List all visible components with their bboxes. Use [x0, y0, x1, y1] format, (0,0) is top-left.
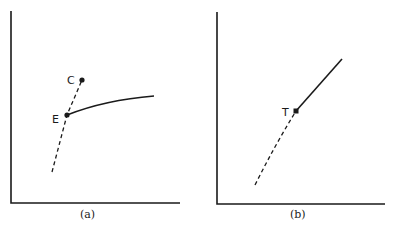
- panel-a-axes: [11, 11, 180, 203]
- panel-a: C E (a): [11, 11, 180, 221]
- panel-a-solid-curve: [67, 96, 154, 115]
- point-t-marker: [294, 109, 299, 114]
- point-t-label: T: [281, 106, 289, 119]
- panel-b-axes: [217, 12, 385, 204]
- panel-b-solid-line: [296, 59, 342, 111]
- panel-b-caption: (b): [290, 208, 306, 221]
- point-c-marker: [79, 77, 84, 82]
- point-c-label: C: [67, 74, 75, 87]
- diagram: C E (a) T (b): [0, 0, 394, 234]
- panel-b-dashed-line: [255, 111, 296, 185]
- panel-a-dashed-line: [52, 80, 82, 172]
- panel-a-caption: (a): [80, 208, 95, 221]
- point-e-label: E: [52, 113, 59, 126]
- panel-b: T (b): [217, 12, 385, 221]
- point-e-marker: [64, 112, 69, 117]
